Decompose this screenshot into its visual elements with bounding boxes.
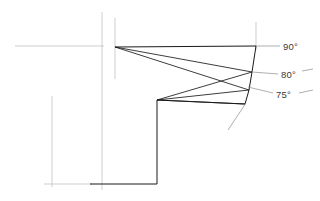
leader-line-80-tail bbox=[302, 69, 313, 71]
edge-right-upper bbox=[252, 46, 256, 72]
construction-lines bbox=[15, 12, 256, 190]
facet-line-lower bbox=[157, 90, 249, 100]
edge-right-lower bbox=[245, 90, 249, 104]
facet-line-base bbox=[157, 100, 245, 104]
leader-line-75 bbox=[248, 87, 273, 93]
angle-label-80: 80° bbox=[281, 69, 296, 80]
edge-top-face bbox=[115, 46, 256, 47]
leader-line-80 bbox=[252, 72, 278, 74]
leader-line-75-tail bbox=[299, 90, 313, 93]
cad-drawing-svg bbox=[0, 0, 320, 201]
facet-line-80 bbox=[115, 47, 249, 90]
facet-line-90 bbox=[115, 47, 252, 72]
leader-lines bbox=[228, 46, 313, 130]
leader-line-corner bbox=[228, 103, 246, 130]
angle-label-75: 75° bbox=[276, 89, 291, 100]
angle-label-90: 90° bbox=[283, 41, 298, 52]
facet-lines bbox=[115, 47, 252, 104]
technical-drawing-canvas: 90° 80° 75° bbox=[0, 0, 320, 201]
